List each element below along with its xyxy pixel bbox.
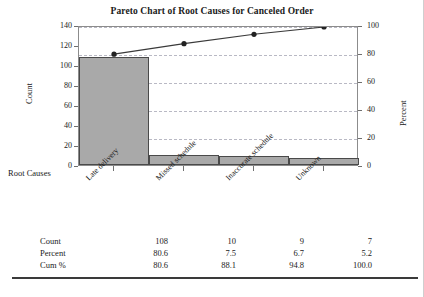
summary-table: Count 108 10 9 7 Percent 80.6 7.5 6.7 5.…: [0, 236, 424, 272]
cumulative-line: [79, 27, 357, 165]
left-axis-tick: 80: [64, 82, 72, 90]
table-cell: 80.6: [100, 260, 168, 272]
left-axis-tick: 120: [60, 42, 72, 50]
plot-area: [78, 26, 358, 166]
right-axis-label: Percent: [398, 101, 408, 127]
table-cell: 9: [236, 236, 304, 248]
table-row-label: Count: [40, 236, 100, 248]
table-cell: 10: [168, 236, 236, 248]
left-axis-label: Count: [24, 83, 34, 104]
right-axis-tick: 20: [367, 134, 375, 142]
left-axis-tick: 20: [64, 142, 72, 150]
left-axis-tick: 100: [60, 62, 72, 70]
right-axis-tick: 0: [367, 162, 371, 170]
right-axis-tick: 40: [367, 106, 375, 114]
table-cell: 80.6: [100, 248, 168, 260]
table-cell: 5.2: [304, 248, 372, 260]
table-row-label: Percent: [40, 248, 100, 260]
left-axis-tick: 60: [64, 102, 72, 110]
right-axis-tick: 80: [367, 50, 375, 58]
table-cell: 108: [100, 236, 168, 248]
left-axis-tick: 40: [64, 122, 72, 130]
table-cell: 7: [304, 236, 372, 248]
pareto-chart-figure: Pareto Chart of Root Causes for Canceled…: [0, 0, 424, 297]
chart-title: Pareto Chart of Root Causes for Canceled…: [0, 6, 424, 16]
table-row-label: Cum %: [40, 260, 100, 272]
table-cell: 100.0: [304, 260, 372, 272]
table-row: Cum % 80.6 88.1 94.8 100.0: [40, 260, 372, 272]
x-axis-ticks: [78, 166, 358, 171]
left-axis-tick: 140: [60, 22, 72, 30]
table-row: Count 108 10 9 7: [40, 236, 372, 248]
table-cell: 6.7: [236, 248, 304, 260]
left-axis: 0 20 40 60 80 100 120 140 Count: [0, 26, 78, 166]
table-cell: 88.1: [168, 260, 236, 272]
right-axis-tick: 100: [367, 22, 379, 30]
right-axis-tick: 60: [367, 78, 375, 86]
x-axis-label: Root Causes: [8, 168, 51, 178]
table-row: Percent 80.6 7.5 6.7 5.2: [40, 248, 372, 260]
table-cell: 7.5: [168, 248, 236, 260]
left-axis-tick: 0: [68, 162, 72, 170]
table-cell: 94.8: [236, 260, 304, 272]
bottom-divider: [12, 277, 418, 279]
right-axis: 0 20 40 60 80 100 Percent: [358, 26, 424, 166]
